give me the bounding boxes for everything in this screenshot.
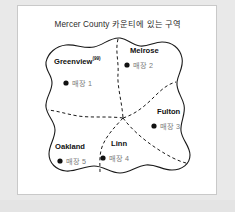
district-name-greenview: Greenview	[54, 57, 92, 66]
figure-panel: Mercer County 카운티에 있는 구역	[17, 5, 217, 195]
district-label-oakland: Oakland	[55, 142, 85, 151]
store-marker-5	[57, 158, 62, 163]
district-name-fulton: Fulton	[157, 107, 180, 116]
district-name-linn: Linn	[111, 139, 127, 148]
county-map	[18, 6, 218, 196]
store-text-4: 매장 4	[109, 154, 129, 163]
district-label-greenview: Greenview(99)	[54, 56, 101, 66]
store-text-1: 매장 1	[72, 79, 92, 88]
store-label-5: 매장 5	[66, 156, 86, 166]
store-label-2: 매장 2	[133, 60, 153, 70]
store-label-4: 매장 4	[109, 153, 129, 163]
store-label-3: 매장 3	[160, 121, 180, 131]
bottom-strip	[0, 200, 235, 212]
store-marker-4	[100, 155, 105, 160]
store-marker-2	[124, 62, 129, 67]
store-label-1: 매장 1	[72, 78, 92, 88]
figure-root: Mercer County 카운티에 있는 구역	[0, 0, 235, 212]
store-text-5: 매장 5	[66, 157, 86, 166]
store-marker-1	[63, 80, 68, 85]
store-text-3: 매장 3	[160, 122, 180, 131]
store-marker-3	[151, 123, 156, 128]
district-label-linn: Linn	[111, 139, 127, 148]
district-superscript-greenview: (99)	[92, 56, 100, 61]
store-text-2: 매장 2	[133, 61, 153, 70]
district-name-melrose: Melrose	[130, 46, 159, 55]
district-label-fulton: Fulton	[157, 107, 180, 116]
district-label-melrose: Melrose	[130, 46, 159, 55]
district-name-oakland: Oakland	[55, 142, 85, 151]
